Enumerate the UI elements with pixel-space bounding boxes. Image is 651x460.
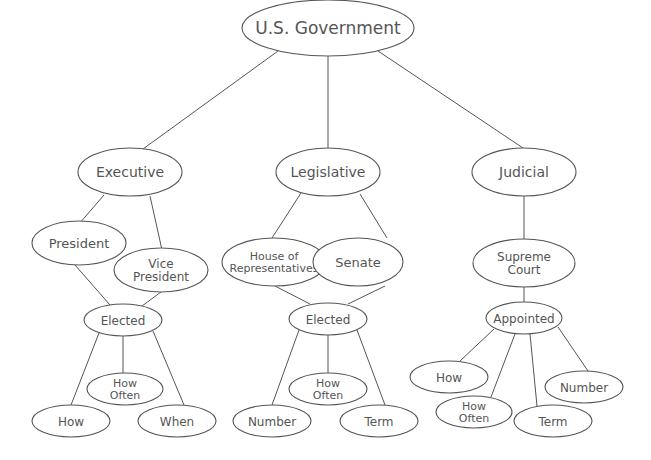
edge-jud_appointed-to-jud_number (558, 327, 588, 371)
edge-vp-to-exec_elected (142, 292, 161, 306)
node-label: Often (110, 389, 140, 402)
node-label: Judicial (498, 164, 549, 180)
node-label: How (113, 377, 137, 390)
node-leg-elected: Elected (289, 303, 367, 335)
node-label: Number (248, 415, 296, 429)
edge-senate-to-leg_elected (348, 286, 385, 304)
node-label: Executive (96, 164, 164, 180)
node-label: How (58, 415, 84, 429)
node-label: Often (313, 389, 343, 402)
node-label: President (133, 270, 189, 284)
node-label: Supreme (497, 250, 551, 264)
edge-gov-to-exec (143, 51, 278, 149)
node-label: Senate (335, 255, 381, 270)
node-label: Term (537, 415, 567, 429)
node-pres: President (32, 221, 126, 265)
node-label: How (316, 377, 340, 390)
us-government-concept-map: U.S. GovernmentExecutiveLegislativeJudic… (0, 0, 651, 460)
node-exec-when: When (138, 405, 216, 437)
edge-exec-to-pres (79, 195, 104, 224)
node-label: Vice (148, 257, 173, 271)
node-label: When (160, 415, 194, 429)
edge-jud_appointed-to-jud_how (460, 329, 494, 361)
node-label: How (436, 371, 462, 385)
node-label: Court (508, 263, 541, 277)
node-jud-how: How (410, 361, 488, 393)
node-jud-number: Number (545, 371, 623, 403)
node-leg-term: Term (340, 405, 418, 437)
node-exec: Executive (78, 148, 182, 196)
node-label: Legislative (291, 164, 366, 180)
node-label: Elected (306, 313, 351, 327)
node-leg-number: Number (233, 405, 311, 437)
node-label: Representatives (230, 262, 319, 275)
connector-lines (71, 51, 588, 406)
node-exec-how: How (32, 405, 110, 437)
node-jud-term: Term (514, 405, 592, 437)
node-house: House ofRepresentatives (222, 238, 326, 286)
node-leg-howoften: HowOften (289, 373, 367, 405)
node-label: Appointed (493, 312, 554, 326)
node-label: Number (560, 381, 608, 395)
edge-leg-to-senate (360, 194, 387, 238)
node-label: U.S. Government (255, 18, 401, 38)
node-exec-elected: Elected (84, 304, 162, 336)
node-label: House of (250, 250, 300, 263)
node-label: Elected (101, 314, 146, 328)
edge-leg-to-house (272, 193, 301, 238)
edge-jud_appointed-to-jud_term (530, 334, 537, 406)
node-jud: Judicial (472, 148, 576, 196)
node-label: How (462, 400, 486, 413)
node-vp: VicePresident (114, 248, 208, 292)
edge-pres-to-exec_elected (75, 265, 110, 305)
node-exec-howoften: HowOften (87, 373, 163, 405)
node-senate: Senate (313, 238, 403, 286)
diagram-canvas: U.S. GovernmentExecutiveLegislativeJudic… (0, 0, 651, 460)
edge-house-to-leg_elected (275, 286, 310, 304)
node-label: Often (459, 412, 489, 425)
node-jud-howoften: HowOften (436, 396, 512, 428)
node-jud-appointed: Appointed (486, 302, 562, 334)
edge-jud_appointed-to-jud_howoften (491, 334, 515, 397)
node-label: Term (363, 415, 393, 429)
node-gov: U.S. Government (242, 0, 414, 56)
node-court: SupremeCourt (473, 239, 575, 287)
edge-gov-to-jud (378, 51, 523, 148)
edge-exec-to-vp (150, 196, 162, 250)
node-label: President (49, 236, 110, 251)
node-leg: Legislative (276, 148, 380, 196)
